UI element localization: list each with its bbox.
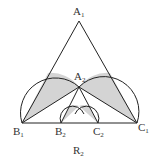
label-A2: A2 [74, 71, 85, 84]
shaded-region-left-large [22, 73, 79, 123]
figure-caption: R2 [73, 145, 84, 158]
label-B2: B2 [55, 126, 66, 139]
label-B1: B1 [13, 126, 24, 139]
shaded-region-left-small [61, 105, 79, 123]
shaded-region-right-small [79, 105, 98, 123]
label-C1: C1 [138, 122, 149, 135]
label-C2: C2 [93, 126, 104, 139]
label-A1: A1 [73, 6, 84, 19]
